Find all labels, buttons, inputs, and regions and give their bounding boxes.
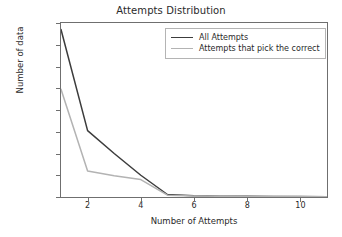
legend-line-icon [171, 37, 193, 38]
y-axis-label: Number of data [15, 5, 25, 115]
x-tick-label: 4 [121, 201, 161, 210]
x-tick-label: 6 [174, 201, 214, 210]
legend-label: Attempts that pick the correct [199, 43, 320, 54]
chart-title: Attempts Distribution [0, 5, 342, 16]
x-tick-label: 8 [227, 201, 267, 210]
chart-figure: Attempts Distribution Number of data 020… [0, 0, 342, 237]
x-tick-mark [247, 198, 248, 202]
legend-line-icon [171, 48, 193, 49]
x-tick-label: 2 [68, 201, 108, 210]
x-tick-mark [194, 198, 195, 202]
legend-label: All Attempts [199, 32, 248, 43]
x-axis-label: Number of Attempts [60, 216, 328, 226]
x-tick-label: 10 [280, 201, 320, 210]
legend-item: All Attempts [171, 32, 320, 43]
x-tick-mark [88, 198, 89, 202]
legend-item: Attempts that pick the correct [171, 43, 320, 54]
x-tick-mark [141, 198, 142, 202]
chart-legend: All Attempts Attempts that pick the corr… [165, 28, 326, 59]
x-tick-mark [300, 198, 301, 202]
